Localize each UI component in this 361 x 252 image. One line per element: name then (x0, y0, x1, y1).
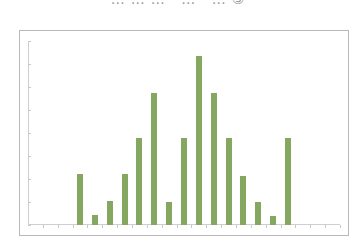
x-tick (236, 225, 237, 228)
bar-7 (122, 174, 128, 225)
bar-10 (166, 202, 172, 225)
bar-16 (255, 202, 261, 225)
bar-17 (270, 216, 276, 225)
x-tick (43, 225, 44, 228)
bar-13 (211, 93, 217, 225)
x-tick (266, 225, 267, 228)
bar-14 (226, 138, 232, 225)
x-tick (87, 225, 88, 228)
x-tick (162, 225, 163, 228)
bar-15 (240, 176, 246, 225)
x-tick (147, 225, 148, 228)
y-tick (28, 225, 31, 226)
y-tick (28, 202, 31, 203)
bar-12 (196, 56, 202, 225)
x-tick (221, 225, 222, 228)
bar-11 (181, 138, 187, 225)
x-tick (102, 225, 103, 228)
x-tick (132, 225, 133, 228)
x-tick (191, 225, 192, 228)
x-tick (295, 225, 296, 228)
bar-8 (136, 138, 142, 225)
y-tick (28, 64, 31, 65)
y-tick (28, 41, 31, 42)
y-tick (28, 179, 31, 180)
bar-5 (92, 215, 98, 225)
x-tick (177, 225, 178, 228)
x-tick (58, 225, 59, 228)
bar-18 (285, 138, 291, 225)
y-tick (28, 133, 31, 134)
bar-4 (77, 174, 83, 225)
x-tick (117, 225, 118, 228)
chart-title-fragment: ……… … …③ (0, 0, 361, 7)
x-tick (310, 225, 311, 228)
x-tick (340, 225, 341, 228)
x-tick (281, 225, 282, 228)
x-tick (325, 225, 326, 228)
bar-6 (107, 201, 113, 225)
x-tick (251, 225, 252, 228)
y-tick (28, 110, 31, 111)
y-tick (28, 156, 31, 157)
x-tick (73, 225, 74, 228)
y-tick (28, 87, 31, 88)
plot-area (28, 41, 340, 225)
x-tick (206, 225, 207, 228)
bar-9 (151, 93, 157, 225)
